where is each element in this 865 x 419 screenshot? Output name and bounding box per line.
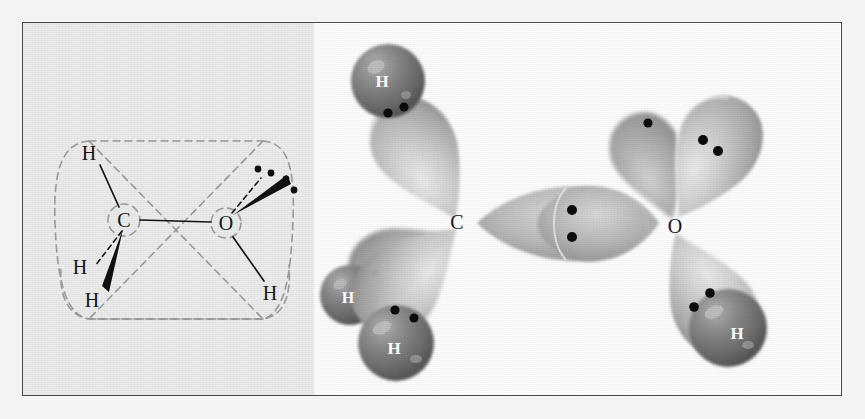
wedge-o-lonepair-front — [233, 175, 291, 215]
hydrogen-label-hydroxyl: H — [730, 324, 743, 343]
bond-c-o — [140, 220, 211, 222]
orbital-oh-sigma-bond — [633, 215, 777, 372]
hydrogen-label-lower-front: H — [387, 339, 400, 358]
orbital-co-sigma-bond — [477, 186, 659, 262]
orbital-ch-sigma-upper-left — [351, 44, 497, 238]
electron-dot — [255, 166, 262, 173]
structural-formula-svg: C O H H H H — [23, 23, 314, 394]
hydrogen-sphere — [689, 289, 767, 367]
electron-dot — [698, 135, 708, 145]
electron-dot — [390, 305, 399, 314]
electron-dot — [713, 146, 723, 156]
electron-dot — [383, 108, 392, 117]
orbital-overlap-panel: C O H H H H — [314, 23, 841, 395]
electron-dot — [409, 313, 418, 322]
structural-formula-panel: C O H H H H — [23, 23, 314, 395]
orbital-diagram-svg: C O H H H H — [314, 23, 840, 394]
hydrogen-label-upper-left: H — [375, 72, 388, 91]
electron-dot — [268, 170, 275, 177]
wedge-bonds — [102, 175, 291, 292]
hydrogen-label-lower-back: H — [342, 289, 355, 306]
bond-c-h-top — [100, 165, 119, 207]
electron-dot — [283, 176, 290, 183]
atom-label-hydrogen-hydroxyl: H — [263, 282, 277, 304]
atom-label-hydrogen-top: H — [82, 142, 96, 164]
electron-dot — [567, 232, 577, 242]
wedge-c-h-front — [102, 229, 123, 292]
atom-label-hydrogen-back: H — [73, 256, 87, 278]
electron-dot — [291, 187, 298, 194]
electron-dot — [643, 118, 652, 127]
atom-label-oxygen: O — [219, 212, 233, 234]
electron-dot — [567, 205, 577, 215]
atom-label-carbon: C — [450, 211, 463, 233]
atom-label-oxygen: O — [668, 215, 682, 237]
atom-label-hydrogen-front: H — [85, 289, 99, 311]
bond-o-h — [233, 237, 264, 281]
atom-label-carbon: C — [117, 209, 130, 231]
electron-dot — [689, 302, 699, 312]
electron-dot — [705, 288, 715, 298]
electron-dot — [399, 102, 408, 111]
chemistry-figure: C O H H H H — [22, 22, 842, 396]
